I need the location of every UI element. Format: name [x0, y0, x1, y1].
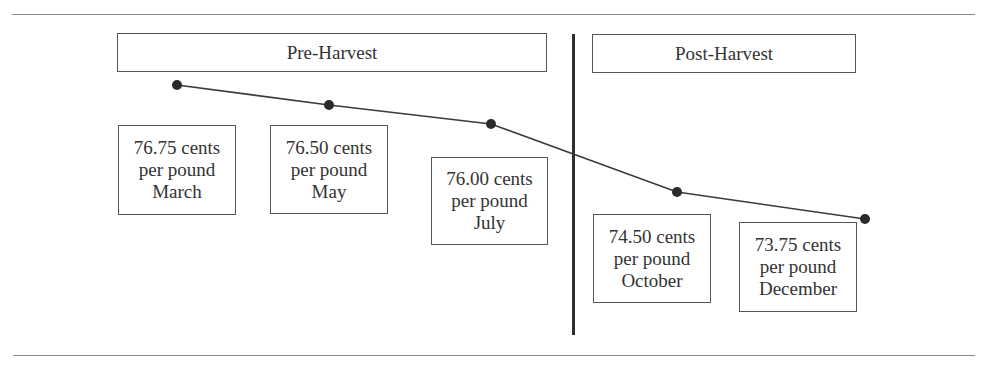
- price-month: October: [621, 270, 682, 292]
- price-label-july: 76.00 cents per pound July: [431, 157, 548, 245]
- price-value: 76.50 cents: [286, 137, 373, 159]
- price-month: May: [312, 181, 347, 203]
- price-month: December: [759, 278, 837, 300]
- price-month: July: [474, 212, 506, 234]
- price-value: 73.75 cents: [755, 234, 842, 256]
- price-unit: per pound: [614, 248, 691, 270]
- price-label-october: 74.50 cents per pound October: [593, 214, 711, 303]
- price-label-december: 73.75 cents per pound December: [739, 222, 857, 312]
- data-point-may: [324, 100, 334, 110]
- price-unit: per pound: [760, 256, 837, 278]
- price-unit: per pound: [291, 159, 368, 181]
- price-unit: per pound: [451, 190, 528, 212]
- price-value: 76.00 cents: [446, 168, 533, 190]
- bottom-rule: [13, 355, 975, 356]
- data-point-march: [172, 80, 182, 90]
- price-month: March: [152, 181, 202, 203]
- price-label-march: 76.75 cents per pound March: [118, 125, 236, 215]
- price-label-may: 76.50 cents per pound May: [270, 125, 388, 214]
- price-value: 74.50 cents: [609, 226, 696, 248]
- price-value: 76.75 cents: [134, 137, 221, 159]
- data-point-july: [486, 119, 496, 129]
- data-point-december: [860, 214, 870, 224]
- data-point-october: [672, 187, 682, 197]
- price-unit: per pound: [139, 159, 216, 181]
